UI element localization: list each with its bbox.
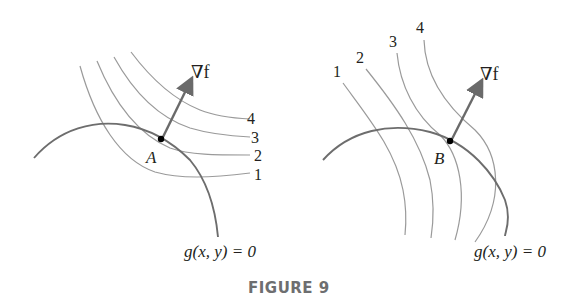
level-label-3: 3 [389,33,397,50]
point-b [447,138,453,144]
gradient-arrow [162,84,189,139]
level-curve-1 [80,66,250,177]
level-label-4: 4 [247,110,255,127]
figure-9: A ∇f 1 2 3 4 g(x, y) = 0 B ∇f 1 2 3 4 g(… [0,0,583,304]
point-b-label: B [434,149,445,168]
gradient-arrow [451,86,479,141]
level-label-2: 2 [356,49,364,66]
gradient-label: ∇f [480,64,499,84]
level-label-2: 2 [254,147,262,164]
level-curve-3 [397,53,461,240]
right-panel: B ∇f 1 2 3 4 g(x, y) = 0 [323,19,546,261]
level-curve-1 [343,83,406,235]
constraint-label: g(x, y) = 0 [474,242,546,261]
level-curve-2 [366,69,433,238]
constraint-curve [323,128,508,236]
gradient-label: ∇f [191,62,210,82]
level-label-1: 1 [254,166,262,183]
figure-caption: FIGURE 9 [248,279,330,297]
point-a [158,136,164,142]
left-panel: A ∇f 1 2 3 4 g(x, y) = 0 [34,52,262,261]
level-curve-2 [97,61,250,155]
level-label-3: 3 [251,129,259,146]
point-a-label: A [145,148,157,167]
constraint-label: g(x, y) = 0 [184,242,256,261]
constraint-curve [34,124,218,237]
level-label-1: 1 [333,63,341,80]
level-label-4: 4 [416,19,424,36]
